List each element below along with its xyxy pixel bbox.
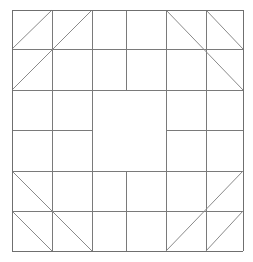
diag-tl-short-icon [12, 10, 52, 49]
diag-tr-long-icon [166, 10, 243, 90]
diag-tr-short-icon [206, 10, 243, 49]
horizontal-grid-lines [12, 49, 243, 211]
grid-pattern-svg [0, 0, 253, 262]
diag-bl-short-icon [12, 211, 52, 251]
diagram-canvas [0, 0, 253, 262]
diag-br-short-icon [206, 211, 243, 251]
